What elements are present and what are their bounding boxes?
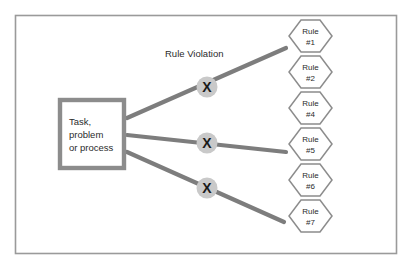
source-box-line-2: problem	[69, 129, 103, 140]
diagram-canvas: Task, problem or process Rule Violation …	[0, 0, 411, 273]
rule-label-4-line-1: Rule	[302, 135, 319, 144]
marker-x-icon-2: X	[202, 135, 212, 151]
marker-x-icon-3: X	[202, 180, 212, 196]
marker-x-icon-1: X	[202, 79, 212, 95]
rule-label-1-line-2: #1	[306, 38, 315, 47]
rule-violation-marker-2: X	[197, 133, 218, 154]
rule-label-6-line-2: #7	[306, 218, 315, 227]
rule-violation-marker-1: X	[197, 77, 218, 98]
rule-label-6-line-1: Rule	[302, 207, 319, 216]
rule-label-4-line-2: #5	[306, 146, 315, 155]
rule-label-3-line-2: #4	[306, 110, 315, 119]
rule-label-2-line-2: #2	[306, 74, 315, 83]
rule-label-2-line-1: Rule	[302, 63, 319, 72]
rule-label-1-line-1: Rule	[302, 27, 319, 36]
rule-violation-diagram: Task, problem or process Rule Violation …	[0, 0, 411, 273]
rule-violation-marker-3: X	[197, 178, 218, 199]
rule-label-5-line-2: #6	[306, 182, 315, 191]
rule-violation-label: Rule Violation	[165, 48, 223, 59]
source-box-line-1: Task,	[69, 116, 91, 127]
rule-label-5-line-1: Rule	[302, 171, 319, 180]
source-box-line-3: or process	[69, 142, 114, 153]
rule-label-3-line-1: Rule	[302, 99, 319, 108]
